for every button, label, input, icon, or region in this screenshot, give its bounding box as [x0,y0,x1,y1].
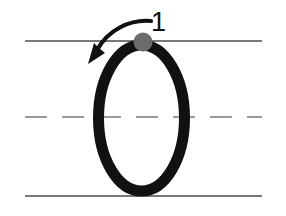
worksheet-canvas: 1 [0,0,286,216]
direction-arrow-head [88,43,105,64]
stroke-order-number: 1 [151,7,166,37]
start-dot-icon [134,33,153,52]
letter-o-oval [99,45,185,191]
letter-formation-worksheet: 1 [0,0,286,216]
